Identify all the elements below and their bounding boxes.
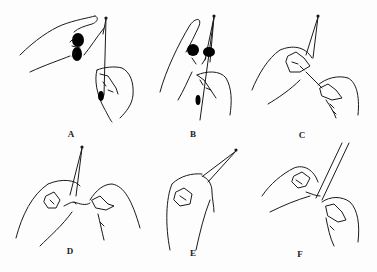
panel-label-f: F: [297, 250, 303, 259]
hand-drawing-f: [0, 0, 377, 272]
knot-tying-figure: A B: [0, 0, 377, 272]
panel-f: F: [0, 0, 377, 272]
